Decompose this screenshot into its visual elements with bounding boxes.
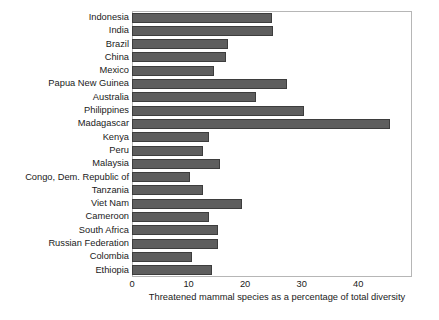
bar-row <box>132 197 412 210</box>
bar <box>132 92 256 102</box>
category-label: Mexico <box>0 64 129 77</box>
category-label: South Africa <box>0 224 129 237</box>
bar-row <box>132 38 412 51</box>
category-label: Papua New Guinea <box>0 77 129 90</box>
bar <box>132 106 304 116</box>
category-label: Ethiopia <box>0 264 129 277</box>
category-label: Philippines <box>0 104 129 117</box>
bar-row <box>132 184 412 197</box>
category-label: Indonesia <box>0 11 129 24</box>
bar <box>132 39 228 49</box>
category-label: Brazil <box>0 38 129 51</box>
bar-row <box>132 224 412 237</box>
bar-row <box>132 77 412 90</box>
x-tick-label: 40 <box>353 279 363 289</box>
bar <box>132 119 390 129</box>
bar-chart: IndonesiaIndiaBrazilChinaMexicoPapua New… <box>0 0 439 320</box>
bar <box>132 199 242 209</box>
bar-series <box>132 11 412 277</box>
x-tick-label: 0 <box>129 279 134 289</box>
bar <box>132 252 192 262</box>
x-axis-title: Threatened mammal species as a percentag… <box>132 292 422 302</box>
bar-row <box>132 11 412 24</box>
category-label: Tanzania <box>0 184 129 197</box>
bar-row <box>132 157 412 170</box>
bar <box>132 26 273 36</box>
bar <box>132 13 272 23</box>
bar-row <box>132 117 412 130</box>
x-tick-label: 20 <box>240 279 250 289</box>
bar <box>132 132 209 142</box>
category-label: Colombia <box>0 250 129 263</box>
bar-row <box>132 264 412 277</box>
bar <box>132 225 218 235</box>
bar-row <box>132 250 412 263</box>
bar <box>132 185 203 195</box>
bar-row <box>132 237 412 250</box>
category-label: Russian Federation <box>0 237 129 250</box>
bar-row <box>132 144 412 157</box>
bar <box>132 172 190 182</box>
category-label: Malaysia <box>0 157 129 170</box>
bar-row <box>132 210 412 223</box>
x-tick-label: 10 <box>183 279 193 289</box>
category-axis-labels: IndonesiaIndiaBrazilChinaMexicoPapua New… <box>0 11 129 277</box>
x-tick-label: 30 <box>297 279 307 289</box>
bar <box>132 239 218 249</box>
bar <box>132 146 203 156</box>
bar <box>132 265 212 275</box>
category-label: Peru <box>0 144 129 157</box>
bar-row <box>132 24 412 37</box>
category-label: Congo, Dem. Republic of <box>0 171 129 184</box>
bar <box>132 66 214 76</box>
bar-row <box>132 131 412 144</box>
bar <box>132 212 209 222</box>
bar-row <box>132 171 412 184</box>
category-label: Kenya <box>0 131 129 144</box>
bar <box>132 159 220 169</box>
bar <box>132 79 287 89</box>
category-label: China <box>0 51 129 64</box>
category-label: India <box>0 24 129 37</box>
x-axis-ticks: 010203040 <box>132 277 412 291</box>
bar-row <box>132 51 412 64</box>
category-label: Australia <box>0 91 129 104</box>
category-label: Madagascar <box>0 117 129 130</box>
bar-row <box>132 104 412 117</box>
bar <box>132 52 226 62</box>
category-label: Cameroon <box>0 210 129 223</box>
bar-row <box>132 91 412 104</box>
category-label: Viet Nam <box>0 197 129 210</box>
bar-row <box>132 64 412 77</box>
